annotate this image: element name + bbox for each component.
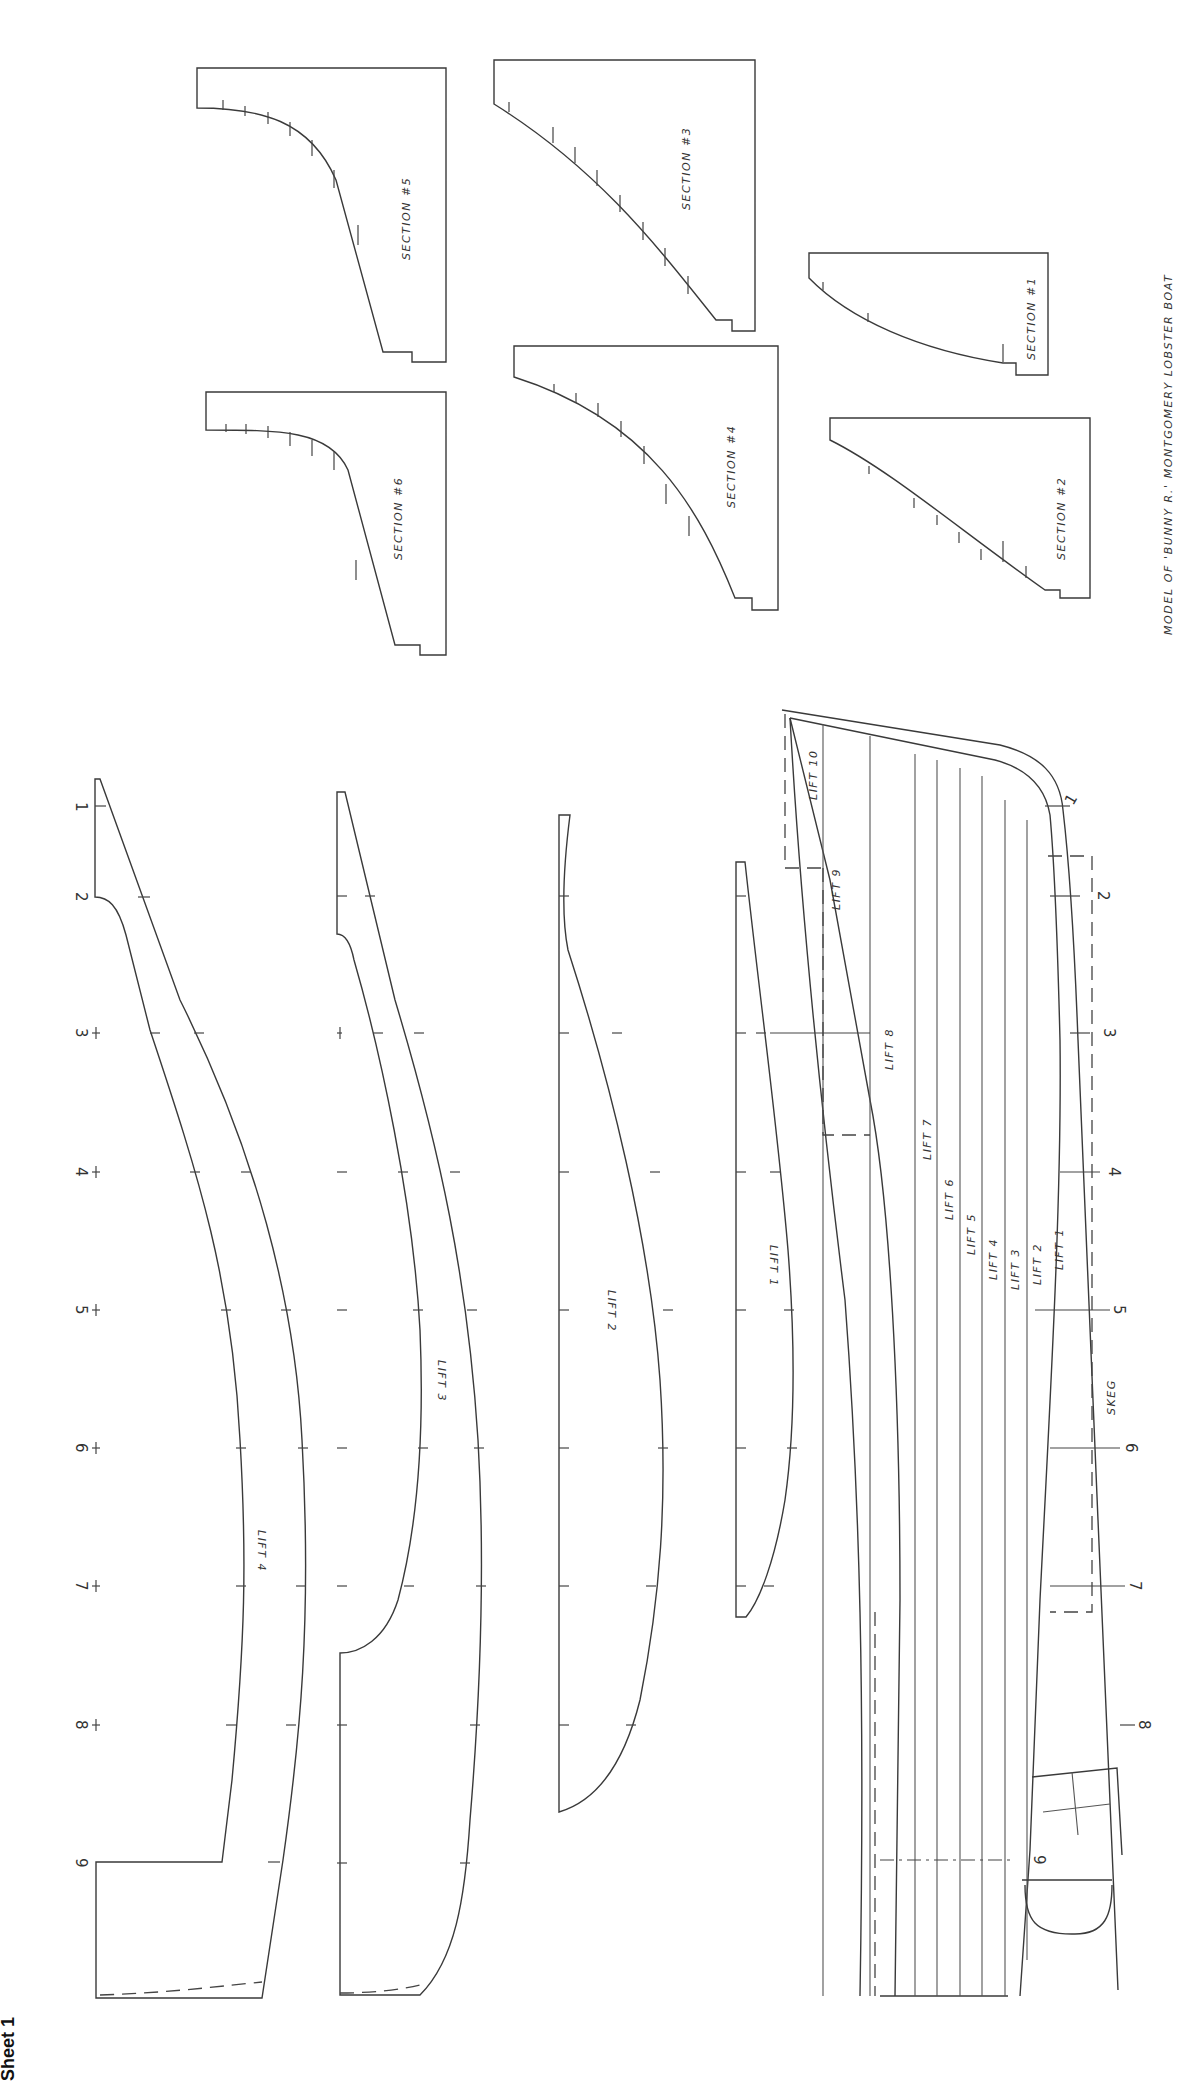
section-5-label: SECTION #5 [400, 177, 413, 260]
drawing-title-block: MODEL OF 'BUNNY R.' MONTGOMERY LOBSTER B… [1162, 274, 1175, 635]
section-3-label: SECTION #3 [680, 127, 693, 210]
profile-lift-1-label: LIFT 1 [1053, 1228, 1066, 1270]
profile-lift-5-label: LIFT 5 [965, 1213, 978, 1255]
profile-lift-6-label: LIFT 6 [943, 1178, 956, 1220]
profile-lift-9-label: LIFT 9 [830, 868, 843, 910]
profile-station-7: 7 [1126, 1581, 1144, 1591]
station-label-2: 2 [72, 892, 90, 902]
station-scale: 1 2 3 4 5 6 7 8 9 [72, 802, 100, 1868]
lift-1-label: LIFT 1 [767, 1245, 780, 1287]
lines-drawing-sheet: 1 2 3 4 5 6 7 8 9 LIFT 4 [0, 0, 1197, 2081]
section-4-template: SECTION #4 [514, 346, 778, 610]
lift-2-label: LIFT 2 [605, 1290, 618, 1332]
profile-station-5: 5 [1110, 1305, 1128, 1315]
profile-lift-8-label: LIFT 8 [883, 1028, 896, 1070]
profile-lift-10-label: LIFT 10 [807, 750, 820, 800]
station-label-1: 1 [72, 802, 90, 812]
sheet-label: Sheet 1 [0, 2017, 18, 2081]
profile-station-9: 9 [1030, 1855, 1048, 1865]
section-5-template: SECTION #5 [197, 68, 446, 362]
lift-4-template: LIFT 4 [95, 779, 308, 1998]
profile-station-2: 2 [1094, 891, 1112, 901]
profile-lift-2-label: LIFT 2 [1031, 1243, 1044, 1285]
section-1-template: SECTION #1 [809, 253, 1048, 375]
section-4-label: SECTION #4 [725, 425, 738, 508]
section-2-template: SECTION #2 [830, 418, 1090, 598]
profile-view: 1 2 3 4 5 6 7 8 9 LIFT 10 LIFT 9 LIFT 8 … [770, 710, 1153, 1996]
profile-station-8: 8 [1135, 1720, 1153, 1730]
profile-station-4: 4 [1105, 1167, 1123, 1177]
lift-4-label: LIFT 4 [255, 1530, 268, 1572]
station-label-7: 7 [72, 1581, 90, 1591]
station-label-8: 8 [72, 1720, 90, 1730]
sheet-label-block: Sheet 1 [0, 2017, 18, 2081]
lift-3-template: LIFT 3 [337, 792, 486, 1995]
station-label-5: 5 [72, 1305, 90, 1315]
station-label-4: 4 [72, 1167, 90, 1177]
profile-lift-3-label: LIFT 3 [1009, 1248, 1022, 1290]
section-2-label: SECTION #2 [1055, 477, 1068, 560]
station-label-3: 3 [72, 1028, 90, 1038]
skeg-label: SKEG [1105, 1379, 1118, 1415]
station-label-6: 6 [72, 1443, 90, 1453]
lift-2-template: LIFT 2 [559, 815, 673, 1812]
lift-1-template: LIFT 1 [736, 862, 797, 1617]
profile-lift-7-label: LIFT 7 [921, 1118, 934, 1160]
profile-lift-4-label: LIFT 4 [987, 1238, 1000, 1280]
station-label-9: 9 [72, 1858, 90, 1868]
section-6-template: SECTION #6 [206, 392, 446, 655]
section-3-template: SECTION #3 [494, 60, 755, 331]
section-6-label: SECTION #6 [392, 477, 405, 560]
drawing-title: MODEL OF 'BUNNY R.' MONTGOMERY LOBSTER B… [1162, 274, 1175, 635]
lift-3-label: LIFT 3 [435, 1360, 448, 1402]
profile-station-3: 3 [1100, 1028, 1118, 1038]
section-1-label: SECTION #1 [1025, 277, 1038, 360]
profile-station-6: 6 [1122, 1443, 1140, 1453]
